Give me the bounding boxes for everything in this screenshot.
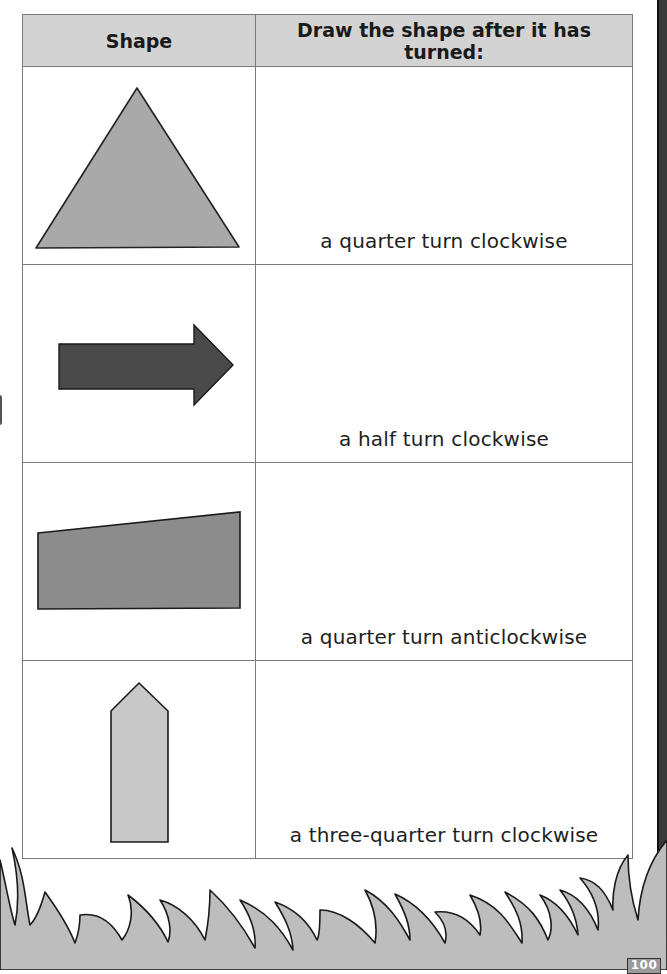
trapezium-shape: [23, 463, 256, 660]
header-row: Shape Draw the shape after it has turned…: [23, 15, 633, 67]
table-row: a half turn clockwise: [23, 265, 633, 463]
header-instruction: Draw the shape after it has turned:: [256, 15, 633, 67]
table-row: a quarter turn anticlockwise: [23, 463, 633, 661]
turn-instruction: a quarter turn clockwise: [256, 229, 632, 264]
page-edge-border: [657, 0, 667, 970]
binding-mark: [0, 395, 2, 425]
triangle-shape: [23, 67, 256, 264]
pentagon-shape: [23, 661, 256, 858]
table-row: a three-quarter turn clockwise: [23, 661, 633, 859]
page-number: 100: [627, 958, 661, 974]
turn-instruction: a quarter turn anticlockwise: [256, 625, 632, 660]
shape-cell-arrow: [23, 265, 256, 463]
arrow-right-shape: [23, 265, 256, 462]
turn-instruction: a half turn clockwise: [256, 427, 632, 462]
drawing-area[interactable]: a half turn clockwise: [256, 265, 633, 463]
drawing-area[interactable]: a three-quarter turn clockwise: [256, 661, 633, 859]
shape-cell-trapezium: [23, 463, 256, 661]
drawing-area[interactable]: a quarter turn clockwise: [256, 67, 633, 265]
header-shape: Shape: [23, 15, 256, 67]
table-row: a quarter turn clockwise: [23, 67, 633, 265]
grass-border-decoration: [0, 840, 667, 970]
shape-cell-pentagon: [23, 661, 256, 859]
drawing-area[interactable]: a quarter turn anticlockwise: [256, 463, 633, 661]
rotation-worksheet-table: Shape Draw the shape after it has turned…: [22, 14, 633, 859]
shape-cell-triangle: [23, 67, 256, 265]
